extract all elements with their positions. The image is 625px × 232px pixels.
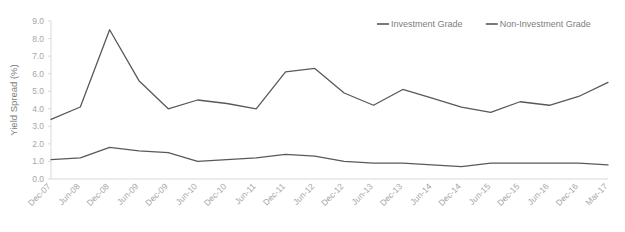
y-tick-label: 9.0 xyxy=(32,16,44,26)
x-tick-label: Mar-17 xyxy=(583,181,609,207)
chart-legend: Investment GradeNon-Investment Grade xyxy=(377,19,591,29)
x-tick-label: Dec-16 xyxy=(554,181,581,208)
x-tick-labels: Dec-07Jun-08Dec-08Jun-09Dec-09Jun-10Dec-… xyxy=(26,181,610,208)
x-tick-label: Jun-14 xyxy=(408,181,434,207)
y-tick-label: 8.0 xyxy=(32,34,44,44)
x-tick-label: Jun-11 xyxy=(233,181,258,206)
chart-canvas: 0.01.02.03.04.05.06.07.08.09.0 Dec-07Jun… xyxy=(0,0,625,232)
y-tick-label: 0.0 xyxy=(32,174,44,184)
data-series-group xyxy=(51,30,608,167)
y-tick-label: 3.0 xyxy=(32,121,44,131)
x-tick-label: Dec-08 xyxy=(85,181,112,208)
y-tick-label: 4.0 xyxy=(32,104,44,114)
x-tick-label: Dec-12 xyxy=(319,181,346,208)
legend-label-2: Non-Investment Grade xyxy=(500,19,591,29)
y-tick-labels: 0.01.02.03.04.05.06.07.08.09.0 xyxy=(32,16,51,184)
x-tick-label: Jun-15 xyxy=(467,181,493,207)
y-axis-title: Yield Spread (%) xyxy=(8,64,19,135)
y-tick-label: 1.0 xyxy=(32,156,44,166)
x-tick-label: Dec-15 xyxy=(495,181,522,208)
x-tick-label: Jun-12 xyxy=(291,181,317,207)
x-tick-label: Dec-10 xyxy=(202,181,229,208)
yield-spread-chart: 0.01.02.03.04.05.06.07.08.09.0 Dec-07Jun… xyxy=(0,0,625,232)
x-tick-label: Jun-13 xyxy=(349,181,375,207)
x-tick-label: Dec-07 xyxy=(26,181,53,208)
series-line-2 xyxy=(51,147,608,166)
x-tick-label: Dec-09 xyxy=(143,181,170,208)
y-tick-label: 6.0 xyxy=(32,69,44,79)
x-tick-label: Dec-14 xyxy=(436,181,463,208)
x-tick-label: Dec-13 xyxy=(378,181,405,208)
x-tick-label: Dec-11 xyxy=(261,181,287,207)
series-line-1 xyxy=(51,30,608,120)
legend-label-1: Investment Grade xyxy=(391,19,463,29)
x-tick-label: Jun-09 xyxy=(115,181,141,207)
y-tick-label: 5.0 xyxy=(32,86,44,96)
y-tick-label: 7.0 xyxy=(32,51,44,61)
x-tick-label: Jun-10 xyxy=(174,181,200,207)
y-tick-label: 2.0 xyxy=(32,139,44,149)
x-tick-label: Jun-16 xyxy=(525,181,551,207)
x-tick-label: Jun-08 xyxy=(56,181,82,207)
